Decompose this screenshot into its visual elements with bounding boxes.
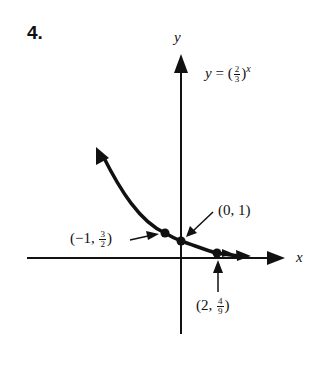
pointer-neg1 xyxy=(130,231,159,240)
equation-lhs: y xyxy=(205,65,212,81)
y-axis xyxy=(174,54,188,334)
pointer-origin xyxy=(186,212,213,237)
point-label-neg1: (−1, 32) xyxy=(70,230,112,249)
equation-base: 23 xyxy=(234,65,241,84)
equation-label: y = (23)x xyxy=(205,64,251,84)
y-axis-label: y xyxy=(174,30,181,45)
point-origin xyxy=(177,237,186,246)
graph-canvas xyxy=(0,0,316,365)
equation-equals: = xyxy=(215,65,223,81)
pointer-2 xyxy=(213,260,223,292)
x-axis-arrow-icon xyxy=(267,251,285,265)
y-axis-arrow-icon xyxy=(174,54,188,73)
point-neg1 xyxy=(161,229,170,238)
equation-exponent: x xyxy=(246,63,250,74)
point-label-2: (2, 49) xyxy=(196,297,230,316)
point-2 xyxy=(213,249,222,258)
x-axis-label: x xyxy=(296,250,303,265)
point-label-origin: (0, 1) xyxy=(218,203,251,218)
curve-arrow-right-icon xyxy=(236,250,251,261)
x-axis xyxy=(27,251,285,265)
